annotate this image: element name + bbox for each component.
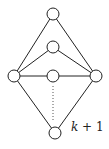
node-top xyxy=(47,8,59,20)
node-left xyxy=(8,70,20,82)
label-suffix: + 1 xyxy=(78,120,103,134)
edge-left-bottom xyxy=(14,76,55,133)
node-right xyxy=(90,70,102,82)
edge-top-right xyxy=(53,14,96,76)
edge-second-right xyxy=(53,47,96,76)
node-second xyxy=(47,41,59,53)
node-middle xyxy=(47,70,59,82)
edge-left-second xyxy=(14,47,53,76)
node-count-label: k + 1 xyxy=(71,120,104,134)
node-bottom xyxy=(49,127,61,139)
